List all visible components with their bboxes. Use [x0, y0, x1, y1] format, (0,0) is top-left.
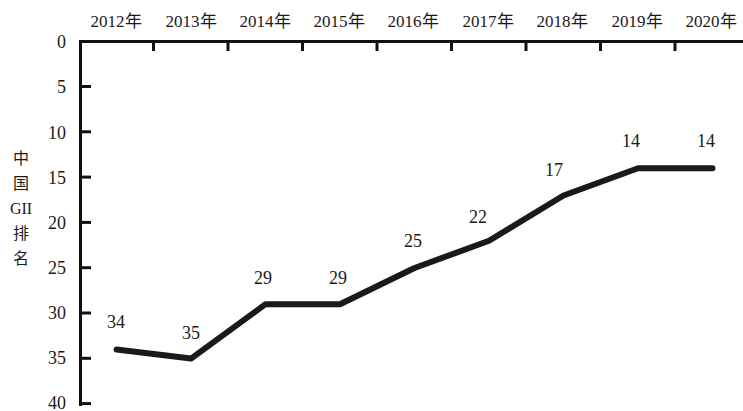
plot-area: [0, 0, 743, 411]
line-chart: 中 国 GII 排 名 0 5 10 15 20 25 30 35 40 201…: [0, 0, 743, 411]
data-line-china-gii-rank: [117, 168, 713, 358]
